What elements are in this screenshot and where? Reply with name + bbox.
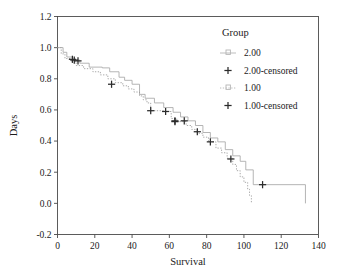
y-tick-label: -0.2 bbox=[36, 230, 51, 240]
x-tick-label: 20 bbox=[90, 241, 100, 251]
censored-marker bbox=[71, 57, 78, 64]
kaplan-meier-chart: 020406080100120140-0.20.00.20.40.60.81.0… bbox=[0, 0, 339, 276]
legend-entry-label: 2.00 bbox=[244, 48, 261, 58]
x-axis-title: Survival bbox=[170, 256, 206, 267]
axis-ticks bbox=[54, 17, 319, 239]
censored-marker bbox=[108, 81, 115, 88]
legend-title: Group bbox=[222, 27, 249, 38]
y-tick-label: 0.4 bbox=[40, 136, 52, 146]
censored-marker bbox=[162, 108, 169, 115]
y-tick-label: 0.0 bbox=[40, 199, 52, 209]
censored-marker bbox=[227, 155, 234, 162]
x-tick-label: 140 bbox=[311, 241, 326, 251]
y-tick-label: 1.2 bbox=[40, 12, 52, 22]
y-axis-title: Days bbox=[8, 115, 19, 137]
y-tick-label: 0.2 bbox=[40, 168, 52, 178]
legend-entry-label: 2.00-censored bbox=[244, 66, 298, 76]
legend-line-icon bbox=[220, 85, 236, 89]
censored-marker bbox=[181, 117, 188, 124]
legend-entry-label: 1.00 bbox=[244, 83, 261, 93]
legend-entry[interactable]: 1.00 bbox=[220, 83, 261, 93]
censored-marker bbox=[147, 107, 154, 114]
axis-tick-labels: 020406080100120140-0.20.00.20.40.60.81.0… bbox=[36, 12, 325, 251]
x-tick-label: 100 bbox=[237, 241, 252, 251]
x-tick-label: 80 bbox=[202, 241, 212, 251]
series-line-1-00 bbox=[58, 48, 252, 204]
chart-canvas: 020406080100120140-0.20.00.20.40.60.81.0… bbox=[0, 0, 339, 276]
y-tick-label: 0.8 bbox=[40, 74, 52, 84]
legend-plus-icon bbox=[224, 67, 231, 74]
y-tick-label: 1.0 bbox=[40, 43, 52, 53]
x-tick-label: 120 bbox=[274, 241, 289, 251]
censored-marker bbox=[171, 118, 178, 125]
legend-entry[interactable]: 1.00-censored bbox=[224, 101, 297, 111]
censored-marker bbox=[259, 181, 266, 188]
legend-entry[interactable]: 2.00 bbox=[220, 48, 261, 58]
legend-entry[interactable]: 2.00-censored bbox=[224, 66, 297, 76]
legend-line-icon bbox=[220, 50, 236, 54]
censored-marker bbox=[207, 138, 214, 145]
x-tick-label: 60 bbox=[165, 241, 175, 251]
legend-entry-label: 1.00-censored bbox=[244, 101, 298, 111]
y-tick-label: 0.6 bbox=[40, 105, 52, 115]
x-tick-label: 0 bbox=[55, 241, 60, 251]
legend: Group2.002.00-censored1.001.00-censored bbox=[220, 27, 298, 111]
x-tick-label: 40 bbox=[127, 241, 137, 251]
legend-plus-icon bbox=[224, 102, 231, 109]
